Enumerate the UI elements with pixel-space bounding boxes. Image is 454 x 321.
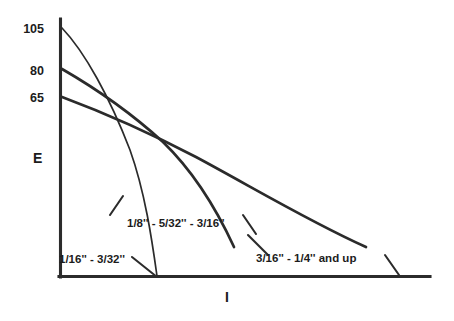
- leader-line-series-0: [132, 257, 157, 277]
- x-axis-title: I: [225, 289, 229, 305]
- series-label-0: 1/16'' - 3/32'': [59, 253, 125, 265]
- leader-line-series-1-upper: [110, 196, 123, 215]
- y-tick-label-80: 80: [30, 64, 44, 78]
- chart-figure: 105 80 65 E I 1/16'' - 3/32'' 1/8'' - 5/…: [0, 0, 454, 321]
- y-tick-label-105: 105: [23, 22, 44, 36]
- y-axis-title: E: [33, 150, 42, 166]
- leader-line-series-2-upper: [243, 215, 256, 234]
- y-tick-label-65: 65: [30, 91, 44, 105]
- chart-canvas: 105 80 65 E I 1/16'' - 3/32'' 1/8'' - 5/…: [0, 0, 454, 321]
- leader-line-series-2-lower: [385, 255, 399, 275]
- series-label-2: 3/16'' - 1/4'' and up: [256, 252, 356, 264]
- series-label-1: 1/8'' - 5/32'' - 3/16'': [127, 217, 225, 229]
- curve-series-0: [62, 28, 157, 276]
